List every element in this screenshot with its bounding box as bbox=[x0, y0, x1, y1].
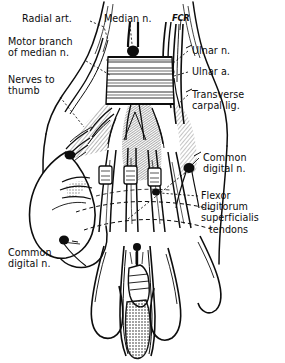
label-common-digital-nerve-right: Common digital n. bbox=[203, 152, 247, 174]
label-flexor-line-2: digitorum bbox=[201, 201, 248, 212]
label-ulnar-nerve: Ulnar n. bbox=[192, 45, 230, 56]
anatomy-figure: Radial art. Median n. FCR Motor branch o… bbox=[0, 0, 285, 363]
little-finger bbox=[198, 236, 221, 313]
label-nerves-to-thumb: Nerves to thumb bbox=[8, 74, 55, 96]
label-ulnar-artery: Ulnar a. bbox=[192, 66, 230, 77]
label-motor-branch-line-1: Motor branch bbox=[8, 36, 73, 47]
label-transverse-carpal-ligament: Transverse carpal lig. bbox=[192, 89, 244, 111]
label-radial-artery: Radial art. bbox=[22, 13, 72, 24]
label-flexor-line-3: superficialis bbox=[201, 212, 259, 223]
label-fcr: FCR bbox=[172, 13, 189, 24]
label-common-left-line-2: digital n. bbox=[8, 258, 51, 269]
label-motor-branch-line-2: of median n. bbox=[8, 47, 69, 58]
label-transverse-line-1: Transverse bbox=[192, 89, 244, 100]
label-nerves-thumb-line-1: Nerves to bbox=[8, 74, 55, 85]
label-flexor-line-4: tendons bbox=[201, 224, 259, 235]
transverse-carpal-ligament bbox=[106, 57, 174, 104]
label-flexor-digitorum-superficialis-tendons: Flexor digitorum superficialis tendons bbox=[201, 190, 259, 235]
middle-finger bbox=[120, 243, 155, 359]
label-common-left-line-1: Common bbox=[8, 247, 52, 258]
thumb-nerve-marker bbox=[65, 151, 76, 160]
label-nerves-thumb-line-2: thumb bbox=[8, 85, 40, 96]
finger-digital-nerves bbox=[126, 243, 151, 359]
label-transverse-line-2: carpal lig. bbox=[192, 100, 240, 111]
common-digital-nerve-marker-left bbox=[59, 236, 69, 245]
label-common-right-line-2: digital n. bbox=[203, 163, 246, 174]
label-common-right-line-1: Common bbox=[203, 152, 247, 163]
label-median-nerve: Median n. bbox=[104, 13, 152, 24]
index-finger bbox=[91, 246, 123, 338]
leader-transverse-carpal bbox=[178, 95, 188, 104]
annular-pulleys bbox=[99, 166, 161, 186]
label-flexor-line-1: Flexor bbox=[201, 190, 230, 201]
label-common-digital-nerve-left: Common digital n. bbox=[8, 247, 52, 269]
label-motor-branch-of-median-nerve: Motor branch of median n. bbox=[8, 36, 73, 58]
median-nerve-marker bbox=[127, 46, 139, 57]
